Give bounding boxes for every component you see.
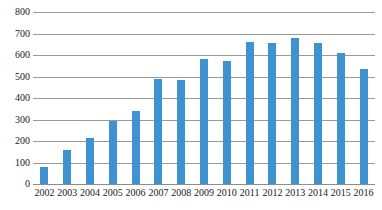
bar-series (33, 12, 375, 184)
bar[interactable] (63, 150, 71, 184)
x-tick-label: 2008 (170, 187, 193, 199)
plot-area (33, 12, 375, 184)
y-tick-label: 400 (0, 93, 30, 103)
x-tick-label: 2012 (261, 187, 284, 199)
x-tick-label: 2002 (33, 187, 56, 199)
x-axis: 2002200320042005200620072008200920102011… (33, 187, 375, 203)
x-tick-label: 2004 (79, 187, 102, 199)
y-tick-label: 800 (0, 7, 30, 17)
y-tick-label: 500 (0, 72, 30, 82)
bar[interactable] (360, 69, 368, 184)
bar-slot (170, 12, 193, 184)
bar-slot (284, 12, 307, 184)
bar[interactable] (109, 121, 117, 184)
bar[interactable] (223, 61, 231, 184)
bar[interactable] (177, 80, 185, 184)
y-tick-label: 300 (0, 115, 30, 125)
bar-slot (238, 12, 261, 184)
axis-baseline (33, 184, 375, 185)
bar-slot (147, 12, 170, 184)
y-tick-label: 0 (0, 179, 30, 189)
bar[interactable] (291, 38, 299, 184)
x-tick-label: 2014 (307, 187, 330, 199)
bar-slot (307, 12, 330, 184)
x-tick-label: 2013 (284, 187, 307, 199)
bar[interactable] (132, 111, 140, 184)
bar[interactable] (337, 53, 345, 184)
x-tick-label: 2007 (147, 187, 170, 199)
x-tick-label: 2003 (56, 187, 79, 199)
y-axis: 0100200300400500600700800 (0, 0, 30, 210)
bar[interactable] (268, 43, 276, 184)
bar-slot (56, 12, 79, 184)
x-tick-label: 2016 (352, 187, 375, 199)
bar[interactable] (86, 138, 94, 184)
bar[interactable] (314, 43, 322, 184)
x-tick-label: 2011 (238, 187, 261, 199)
bar-slot (193, 12, 216, 184)
bar-slot (33, 12, 56, 184)
y-tick-label: 600 (0, 50, 30, 60)
bar[interactable] (40, 167, 48, 184)
y-tick-label: 100 (0, 158, 30, 168)
y-tick-label: 700 (0, 29, 30, 39)
bar[interactable] (200, 59, 208, 184)
x-tick-label: 2006 (124, 187, 147, 199)
x-tick-label: 2005 (101, 187, 124, 199)
bar-slot (101, 12, 124, 184)
x-tick-label: 2009 (193, 187, 216, 199)
bar-chart: 0100200300400500600700800 20022003200420… (0, 0, 382, 210)
bar-slot (329, 12, 352, 184)
bar-slot (261, 12, 284, 184)
y-tick-label: 200 (0, 136, 30, 146)
bar[interactable] (246, 42, 254, 184)
bar-slot (79, 12, 102, 184)
bar[interactable] (154, 79, 162, 184)
x-tick-label: 2015 (329, 187, 352, 199)
bar-slot (352, 12, 375, 184)
x-tick-label: 2010 (215, 187, 238, 199)
bar-slot (124, 12, 147, 184)
bar-slot (215, 12, 238, 184)
